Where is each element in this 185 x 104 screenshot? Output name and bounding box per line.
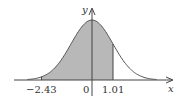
y-axis-label: y (81, 4, 88, 15)
tick-label-left: −2.43 (26, 84, 57, 95)
normal-curve-chart: x y −2.43 0 1.01 (0, 0, 185, 104)
tick-label-right: 1.01 (102, 84, 124, 95)
shaded-area (42, 20, 114, 80)
tick-label-zero: 0 (83, 84, 89, 95)
x-axis-label: x (168, 83, 174, 94)
